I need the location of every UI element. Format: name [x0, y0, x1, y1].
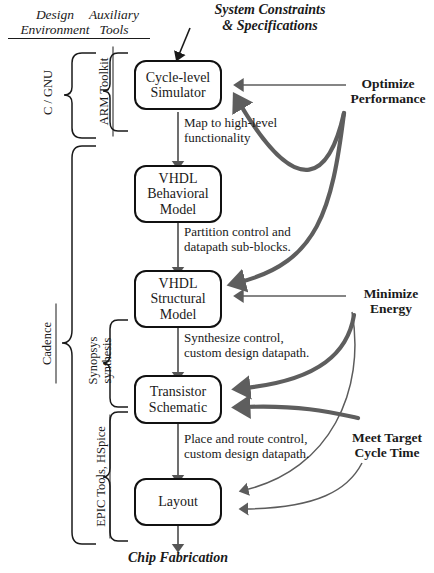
edge-label-line1: Map to high-level: [184, 115, 277, 130]
goal-line1: Optimize: [340, 76, 434, 91]
edge-label-structural-to-transistor: Synthesize control, custom design datapa…: [184, 330, 309, 360]
edge-label-transistor-to-layout: Place and route control, custom design d…: [184, 431, 309, 461]
node-line1: Transistor: [149, 384, 207, 400]
goal-minimize-energy: Minimize Energy: [348, 286, 434, 316]
node-line2: Structural: [150, 291, 205, 307]
brace-label-epic-tools-hspice-text: EPIC Tools, HSpice: [94, 415, 111, 539]
brace-label-cadence-text: Cadence: [40, 304, 57, 384]
edge-label-line2: datapath sub-blocks.: [184, 239, 291, 254]
goal-line2: Energy: [348, 301, 434, 316]
node-line2: Simulator: [146, 85, 211, 101]
system-constraints-line2: & Specifications: [176, 18, 364, 34]
design-flow-diagram: Design Environment Auxiliary Tools C / G…: [0, 0, 434, 573]
node-layout[interactable]: Layout: [134, 478, 222, 526]
node-line3: Model: [150, 307, 205, 323]
goal-optimize-performance: Optimize Performance: [340, 76, 434, 106]
edge-label-behavioral-to-structural: Partition control and datapath sub-block…: [184, 224, 291, 254]
node-cycle-level-simulator[interactable]: Cycle-level Simulator: [134, 60, 222, 110]
node-line1: Cycle-level: [146, 70, 211, 86]
node-line3: Model: [147, 202, 208, 218]
brace-label-c-gnu-text: C / GNU: [41, 53, 56, 133]
edge-label-line2: custom design datapath.: [184, 345, 309, 360]
chip-fabrication-label: Chip Fabrication: [110, 550, 246, 566]
node-line2: Schematic: [149, 400, 207, 416]
brace-label-synopsys-synthesis: Synopsys synthesis: [58, 347, 142, 379]
column-header-line1: Auxiliary: [78, 8, 150, 23]
node-line2: Behavioral: [147, 186, 208, 202]
column-header-auxiliary-tools: Auxiliary Tools: [78, 8, 150, 39]
edge-label-line1: Partition control and: [184, 224, 291, 239]
brace-label-synopsys-synthesis-text: Synopsys synthesis: [87, 319, 114, 403]
node-transistor-schematic[interactable]: Transistor Schematic: [134, 375, 222, 424]
node-line1: VHDL: [147, 171, 208, 187]
brace-label-line2: synthesis: [100, 319, 114, 403]
edge-label-line1: Synthesize control,: [184, 330, 309, 345]
node-line1: Layout: [158, 494, 198, 510]
system-constraints-label: System Constraints & Specifications: [176, 2, 364, 34]
goal-meet-target-cycle-time: Meet Target Cycle Time: [340, 430, 434, 460]
brace-label-line1: Synopsys: [87, 319, 101, 403]
node-vhdl-behavioral-model[interactable]: VHDL Behavioral Model: [134, 165, 222, 223]
feedback-meet-target-to-layout: [245, 463, 362, 509]
edge-label-simulator-to-behavioral: Map to high-level functionality: [184, 115, 277, 145]
brace-label-arm-toolkit-text: ARM Toolkit: [97, 47, 114, 137]
goal-line2: Cycle Time: [340, 445, 434, 460]
edge-label-line2: functionality: [184, 130, 277, 145]
goal-line1: Meet Target: [340, 430, 434, 445]
column-header-line2: Tools: [78, 23, 150, 38]
edge-label-line2: custom design datapath.: [184, 446, 309, 461]
goal-line1: Minimize: [348, 286, 434, 301]
node-line1: VHDL: [150, 276, 205, 292]
system-constraints-line1: System Constraints: [176, 2, 364, 18]
node-vhdl-structural-model[interactable]: VHDL Structural Model: [134, 270, 222, 328]
goal-line2: Performance: [340, 91, 434, 106]
edge-label-line1: Place and route control,: [184, 431, 309, 446]
